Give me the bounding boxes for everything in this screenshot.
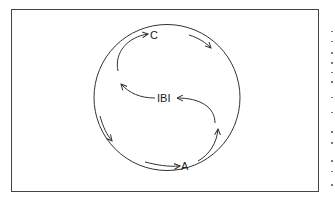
arrow-a-up-right <box>198 129 218 161</box>
arrow-ibi-to-left <box>121 84 155 98</box>
arrow-right-to-ibi <box>177 98 215 123</box>
node-label-ibi: IBI <box>157 92 170 104</box>
cycle-diagram: C IBI A <box>0 0 335 202</box>
edge-text-marks <box>331 31 333 186</box>
node-label-c: C <box>150 29 158 41</box>
arrow-to-a <box>145 162 180 166</box>
node-label-a: A <box>181 160 189 172</box>
diagram-canvas: C IBI A <box>0 0 335 202</box>
